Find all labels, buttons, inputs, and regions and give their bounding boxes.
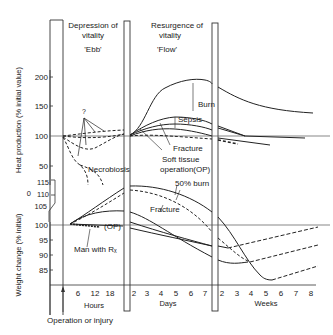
bottom-y-ticks: 100 95 90 85 xyxy=(35,221,49,275)
svg-text:6: 6 xyxy=(76,289,81,298)
divider-origin xyxy=(50,20,63,315)
label-op: (OP) xyxy=(104,222,121,231)
hours-label: Hours xyxy=(84,301,104,310)
svg-text:115: 115 xyxy=(37,178,49,187)
ebb-curves xyxy=(63,130,124,185)
break-ticks: 115 110 105 0 xyxy=(27,178,55,222)
divider-days-weeks xyxy=(212,23,218,311)
svg-text:12: 12 xyxy=(91,289,100,298)
label-necrobiosis: Necrobiosis xyxy=(88,165,130,174)
svg-text:95: 95 xyxy=(39,236,48,245)
svg-text:7: 7 xyxy=(294,289,299,298)
svg-text:150: 150 xyxy=(35,102,49,111)
svg-text:2: 2 xyxy=(132,289,137,298)
origin-label: Operation or injury xyxy=(47,316,113,325)
top-y-ticks: 200 150 100 50 xyxy=(35,73,49,171)
days-label: Days xyxy=(159,299,176,308)
top-labels: Burn Sepsis Fracture Soft tissue operati… xyxy=(88,100,215,174)
label-soft-tissue-2: operation(OP) xyxy=(160,165,211,174)
x-ticks: 6 12 18 Hours 2 3 4 5 6 7 Days 2 3 4 5 6… xyxy=(76,289,314,310)
label-50-burn: 50% burn xyxy=(175,179,209,188)
label-man-with-rx: Man with Rₓ xyxy=(74,245,117,254)
svg-text:4: 4 xyxy=(249,289,254,298)
ebb-flow-diagram: Depression of vitality 'Ebb' Resurgence … xyxy=(0,0,333,335)
svg-text:100: 100 xyxy=(35,221,49,230)
ebb-title-1: Depression of xyxy=(68,21,118,30)
svg-text:5: 5 xyxy=(174,289,179,298)
label-fracture: Fracture xyxy=(173,144,203,153)
svg-text:100: 100 xyxy=(35,132,49,141)
question-mark: ? xyxy=(82,108,86,115)
svg-text:0: 0 xyxy=(27,189,31,198)
ebb-title-3: 'Ebb' xyxy=(84,45,102,54)
bottom-curves xyxy=(70,185,318,280)
curve-burn-weeks xyxy=(218,87,313,113)
svg-text:4: 4 xyxy=(159,289,164,298)
svg-text:3: 3 xyxy=(145,289,150,298)
label-fracture-weight: Fracture xyxy=(150,205,180,214)
svg-text:110: 110 xyxy=(37,190,49,199)
weeks-label: Weeks xyxy=(255,299,278,308)
svg-text:6: 6 xyxy=(279,289,284,298)
phase-headings: Depression of vitality 'Ebb' Resurgence … xyxy=(68,21,203,54)
svg-text:2: 2 xyxy=(220,289,225,298)
svg-text:6: 6 xyxy=(189,289,194,298)
svg-text:3: 3 xyxy=(235,289,240,298)
svg-text:85: 85 xyxy=(39,266,48,275)
curve-fracture xyxy=(130,124,212,135)
label-sepsis: Sepsis xyxy=(178,115,202,124)
svg-text:18: 18 xyxy=(106,289,115,298)
top-y-axis-label: Heat production (% initial value) xyxy=(14,67,23,173)
bottom-y-axis-label: Weight change (% initial) xyxy=(14,213,23,296)
svg-text:8: 8 xyxy=(309,289,314,298)
flow-title-2: vitality xyxy=(159,31,181,40)
svg-text:7: 7 xyxy=(203,289,208,298)
svg-text:200: 200 xyxy=(35,73,49,82)
label-soft-tissue-1: Soft tissue xyxy=(162,155,200,164)
flow-title-1: Resurgence of xyxy=(151,21,204,30)
svg-text:50: 50 xyxy=(39,162,48,171)
svg-text:105: 105 xyxy=(34,202,47,211)
svg-text:5: 5 xyxy=(264,289,269,298)
label-burn: Burn xyxy=(198,100,215,109)
ebb-title-2: vitality xyxy=(82,31,104,40)
flow-title-3: 'Flow' xyxy=(157,45,177,54)
svg-text:90: 90 xyxy=(39,251,48,260)
arrow-up-icon xyxy=(61,286,65,292)
